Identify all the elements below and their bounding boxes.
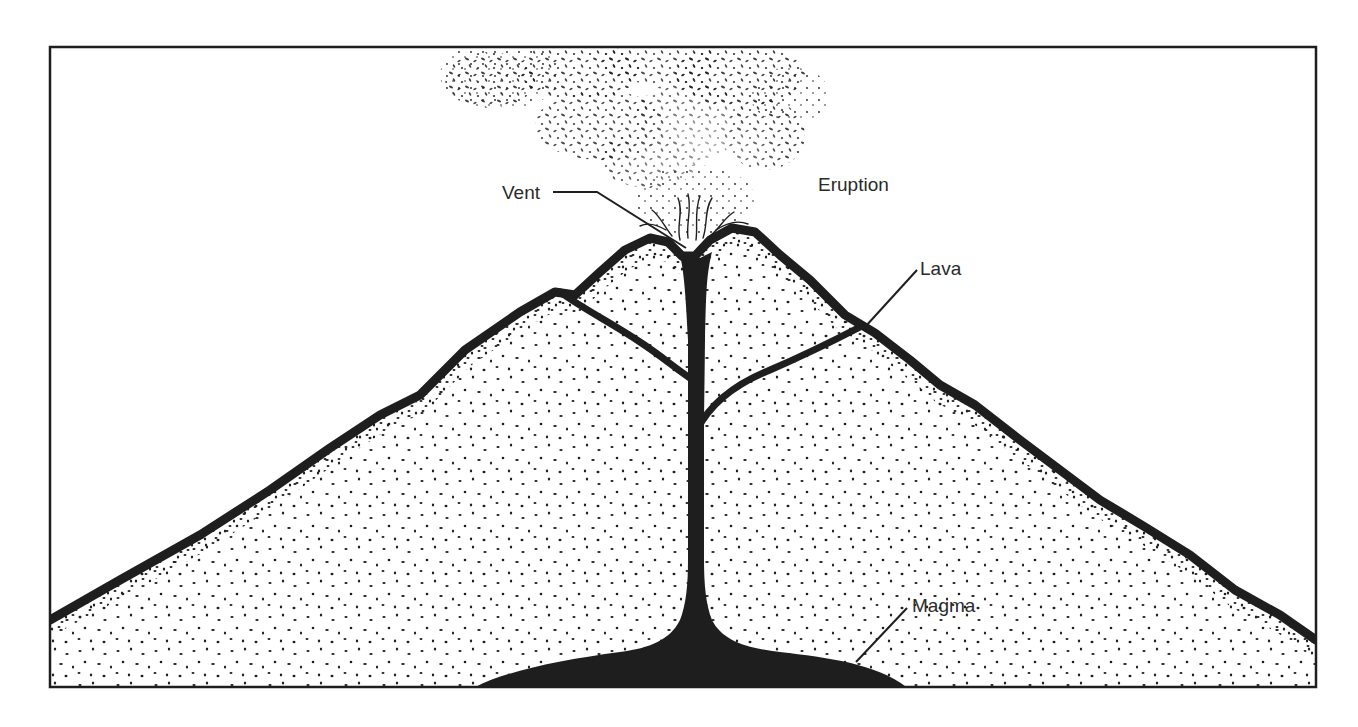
- label-lava: Lava: [920, 259, 961, 278]
- label-magma: Magma: [912, 596, 975, 615]
- volcano-diagram: [0, 0, 1358, 727]
- label-eruption: Eruption: [818, 175, 889, 194]
- label-vent: Vent: [502, 183, 540, 202]
